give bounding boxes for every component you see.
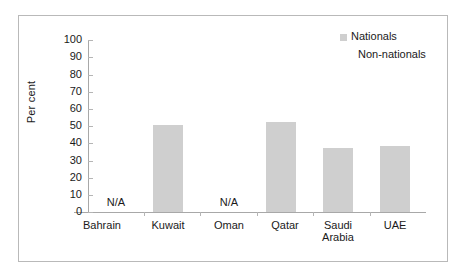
category-separator-5 — [370, 212, 371, 216]
category-separator-4 — [313, 212, 314, 216]
bar-kuwait-nationals — [153, 125, 183, 212]
y-tick-label-0: 0 — [52, 206, 82, 217]
bar-qatar-nationals — [266, 122, 296, 212]
bar-uae-nationals — [380, 146, 410, 212]
y-tick-label-40: 40 — [52, 137, 82, 148]
legend-label-nationals: Nationals — [351, 30, 397, 43]
bar-saudi-arabia-nationals — [323, 148, 353, 212]
y-tick-60 — [88, 109, 93, 110]
y-tick-label-70: 70 — [52, 86, 82, 97]
y-tick-80 — [88, 75, 93, 76]
y-tick-label-100: 100 — [52, 34, 82, 45]
x-axis-line — [74, 212, 426, 213]
category-separator-2 — [200, 212, 201, 216]
y-tick-label-10: 10 — [52, 189, 82, 200]
y-tick-label-60: 60 — [52, 103, 82, 114]
chart-figure: Per cent 100 90 80 70 60 50 40 30 20 10 … — [0, 0, 464, 278]
legend-label-non-nationals: Non-nationals — [358, 48, 426, 61]
y-tick-label-90: 90 — [52, 51, 82, 62]
y-tick-70 — [88, 92, 93, 93]
legend-swatch-icon-nationals — [340, 34, 347, 41]
legend-entry-non-nationals: Non-nationals — [340, 48, 448, 66]
na-label-bahrain: N/A — [88, 196, 144, 208]
y-tick-40 — [88, 143, 93, 144]
y-tick-20 — [88, 178, 93, 179]
y-tick-30 — [88, 161, 93, 162]
y-tick-label-50: 50 — [52, 120, 82, 131]
y-tick-0 — [88, 212, 93, 213]
y-tick-label-80: 80 — [52, 69, 82, 80]
category-separator-1 — [144, 212, 145, 216]
y-axis-title: Per cent — [25, 67, 37, 137]
na-label-oman: N/A — [201, 196, 257, 208]
legend-swatch-icon-non-nationals — [340, 52, 347, 59]
y-tick-label-30: 30 — [52, 155, 82, 166]
category-separator-3 — [257, 212, 258, 216]
chart-legend: Nationals Non-nationals — [340, 30, 448, 66]
y-tick-90 — [88, 57, 93, 58]
y-tick-label-20: 20 — [52, 172, 82, 183]
y-tick-100 — [88, 40, 93, 41]
y-tick-50 — [88, 126, 93, 127]
legend-entry-nationals: Nationals — [340, 30, 448, 48]
x-label-uae: UAE — [353, 219, 437, 231]
